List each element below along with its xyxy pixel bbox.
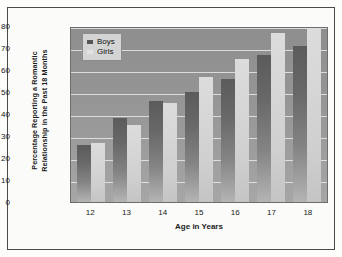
y-axis-tick-label: 60	[0, 66, 10, 75]
y-axis-tick-label: 50	[0, 88, 10, 97]
x-axis-tick-label: 16	[217, 208, 253, 217]
y-axis-tick-label: 30	[0, 132, 10, 141]
bar-boys-12	[77, 145, 91, 202]
figure-container: Percentage Reporting a Romantic Relation…	[0, 0, 342, 257]
x-axis-title: Age in Years	[70, 222, 328, 231]
bar-boys-18	[293, 46, 307, 202]
bar-boys-17	[257, 55, 271, 202]
bar-group	[253, 28, 289, 202]
bar-girls-16	[235, 59, 249, 202]
bar-boys-13	[113, 118, 127, 202]
plot-area: Boys Girls	[70, 27, 328, 203]
x-axis-tick-label: 13	[108, 208, 144, 217]
y-axis-tick-label: 0	[0, 198, 10, 207]
bar-group	[289, 28, 325, 202]
x-axis-tick-labels: 12131415161718	[70, 208, 328, 217]
legend-swatch-girls	[87, 50, 93, 54]
x-axis-tick-label: 12	[72, 208, 108, 217]
bar-boys-14	[149, 101, 163, 202]
y-axis-tick-label: 10	[0, 176, 10, 185]
y-axis-tick-label: 80	[0, 22, 10, 31]
bar-girls-14	[163, 103, 177, 202]
y-axis-title-line-1: Percentage Reporting a Romantic	[30, 21, 40, 201]
x-axis-tick-label: 14	[145, 208, 181, 217]
legend-label-boys: Boys	[97, 37, 115, 47]
bar-group	[181, 28, 217, 202]
y-axis-title-line-2: Relationship in the Past 18 Months	[39, 21, 49, 201]
bar-girls-15	[199, 77, 213, 202]
bar-boys-15	[185, 92, 199, 202]
legend-swatch-boys	[87, 40, 93, 44]
bar-girls-17	[271, 33, 285, 202]
bar-girls-13	[127, 125, 141, 202]
legend-item-girls: Girls	[87, 47, 115, 57]
bar-group	[145, 28, 181, 202]
x-axis-tick-label: 18	[290, 208, 326, 217]
x-axis-tick-label: 17	[253, 208, 289, 217]
y-axis-tick-label: 70	[0, 44, 10, 53]
bar-group	[217, 28, 253, 202]
legend-item-boys: Boys	[87, 37, 115, 47]
y-axis-title: Percentage Reporting a Romantic Relation…	[30, 21, 49, 201]
bar-girls-12	[91, 143, 105, 202]
legend-label-girls: Girls	[97, 47, 113, 57]
x-axis-tick-label: 15	[181, 208, 217, 217]
y-axis-tick-label: 40	[0, 110, 10, 119]
bar-girls-18	[307, 28, 321, 202]
figure-border-frame: Percentage Reporting a Romantic Relation…	[7, 7, 335, 250]
bar-boys-16	[221, 79, 235, 202]
legend: Boys Girls	[82, 33, 122, 61]
y-axis-tick-label: 20	[0, 154, 10, 163]
